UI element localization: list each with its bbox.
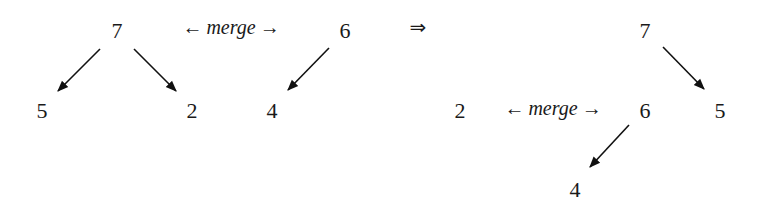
node-after-subtree-left: 4 xyxy=(570,179,581,201)
merge-diagram: 7 5 2 6 4 ←merge→ ⇒ 7 5 6 4 2 ←merge→ xyxy=(0,0,765,211)
left-arrow-icon: ← xyxy=(504,97,524,119)
implies-icon: ⇒ xyxy=(410,17,427,37)
node-after-root: 7 xyxy=(640,20,651,42)
merge-label-before: ←merge→ xyxy=(182,17,279,37)
left-arrow-icon: ← xyxy=(182,16,202,38)
merge-word: merge xyxy=(206,16,255,38)
right-arrow-icon: → xyxy=(260,16,280,38)
edge-7-to-5-after xyxy=(663,47,704,89)
node-a-right: 2 xyxy=(187,100,198,122)
right-arrow-icon: → xyxy=(582,97,602,119)
node-a-root: 7 xyxy=(112,20,123,42)
merge-label-after: ←merge→ xyxy=(504,98,601,118)
node-a-left: 5 xyxy=(37,100,48,122)
node-b-left: 4 xyxy=(267,100,278,122)
edge-7-to-2-before xyxy=(134,49,176,91)
edge-7-to-5-before xyxy=(58,49,100,91)
node-b-root: 6 xyxy=(340,20,351,42)
node-after-subtree-root: 6 xyxy=(640,100,651,122)
edge-6-to-4-after xyxy=(590,125,629,167)
merge-word: merge xyxy=(528,97,577,119)
node-after-root-right: 5 xyxy=(715,100,726,122)
node-after-lone: 2 xyxy=(455,100,466,122)
edge-6-to-4-before xyxy=(288,48,329,90)
